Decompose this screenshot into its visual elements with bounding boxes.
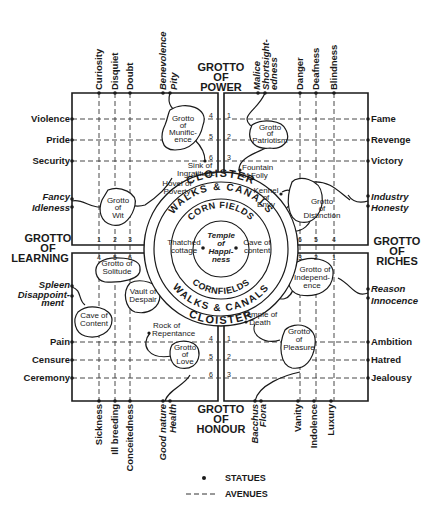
svg-text:Envy: Envy	[257, 200, 275, 209]
svg-text:Distinction: Distinction	[304, 211, 341, 220]
svg-text:5: 5	[314, 236, 318, 243]
svg-text:Deafness: Deafness	[310, 48, 321, 90]
svg-text:Fame: Fame	[371, 113, 396, 124]
hovel-of-poverty: Hovel of Poverty	[162, 179, 192, 196]
svg-text:3: 3	[227, 154, 231, 161]
svg-text:ness: ness	[212, 255, 231, 264]
svg-text:Ambition: Ambition	[371, 336, 412, 347]
svg-text:5: 5	[209, 133, 213, 140]
svg-text:4: 4	[97, 254, 101, 261]
svg-text:cottage: cottage	[171, 246, 198, 255]
svg-text:Violence: Violence	[31, 113, 70, 124]
svg-text:Idleness: Idleness	[32, 202, 70, 213]
grotto-of-power: GROTTO OF POWER	[198, 61, 245, 93]
svg-text:4: 4	[332, 236, 336, 243]
svg-text:3: 3	[128, 236, 132, 243]
svg-text:6: 6	[209, 154, 213, 161]
svg-text:Solitude: Solitude	[103, 267, 132, 276]
svg-text:Indolence: Indolence	[308, 404, 319, 448]
cave-of-content-center: Cave of content	[243, 238, 271, 255]
svg-text:3: 3	[298, 254, 302, 261]
svg-text:ment: ment	[41, 297, 65, 308]
svg-text:Health: Health	[167, 404, 178, 433]
svg-text:2: 2	[314, 254, 318, 261]
thatched-cottage: Thatched cottage	[167, 238, 200, 255]
svg-text:Ingratitude: Ingratitude	[177, 169, 215, 178]
svg-text:content: content	[244, 246, 271, 255]
grotto-of-solitude: Grotto of Solitude	[101, 259, 133, 276]
svg-text:Flora: Flora	[257, 404, 268, 427]
statue-dot-icon	[202, 476, 206, 480]
svg-text:Honesty: Honesty	[371, 202, 409, 213]
grotto-of-honour: GROTTO OF HONOUR	[197, 403, 246, 435]
svg-text:Jealousy: Jealousy	[371, 372, 412, 383]
svg-text:Danger: Danger	[294, 57, 305, 90]
svg-text:Ill breeding: Ill breeding	[109, 404, 120, 455]
svg-text:2: 2	[113, 236, 117, 243]
svg-text:Benevolence: Benevolence	[157, 31, 168, 90]
svg-text:Pleasure: Pleasure	[283, 343, 315, 352]
svg-text:Revenge: Revenge	[371, 134, 411, 145]
svg-text:Doubt: Doubt	[124, 62, 135, 90]
svg-text:Censure: Censure	[32, 354, 70, 365]
svg-text:Pity: Pity	[168, 72, 179, 90]
sink-of-ingratitude: Sink of Ingratitude	[177, 159, 215, 178]
svg-text:5: 5	[209, 353, 213, 360]
svg-text:Vanity: Vanity	[292, 403, 303, 432]
labyrinth-diagram: CLOISTER CLOISTER WALKS & CANALS WALKS &…	[0, 0, 444, 521]
grotto-of-riches: GROTTO OF RICHES	[374, 235, 421, 267]
svg-text:HONOUR: HONOUR	[197, 423, 246, 435]
svg-text:1: 1	[227, 335, 231, 342]
svg-text:Pain: Pain	[50, 336, 70, 347]
svg-text:1: 1	[97, 236, 101, 243]
grotto-of-learning: GROTTO OF LEARNING	[11, 232, 72, 264]
svg-text:Fancy: Fancy	[43, 191, 71, 202]
svg-text:2: 2	[227, 353, 231, 360]
svg-text:Security: Security	[33, 155, 71, 166]
svg-text:Industry: Industry	[371, 191, 409, 202]
rock-of-repentance: Rock of Repentance	[147, 321, 195, 338]
svg-text:Hatred: Hatred	[371, 354, 401, 365]
svg-text:Death: Death	[249, 318, 270, 327]
svg-text:5: 5	[113, 254, 117, 261]
svg-text:4: 4	[209, 112, 213, 119]
svg-text:LEARNING: LEARNING	[11, 252, 68, 264]
svg-text:Luxury: Luxury	[325, 403, 336, 435]
svg-text:Content: Content	[80, 319, 109, 328]
svg-text:Love: Love	[176, 357, 194, 366]
legend-statues: STATUES	[225, 473, 266, 483]
svg-text:Innocence: Innocence	[371, 295, 419, 306]
svg-text:Poverty: Poverty	[163, 187, 190, 196]
cave-of-content-left: Cave of Content	[80, 311, 109, 328]
svg-text:Repentance: Repentance	[152, 329, 196, 338]
svg-text:3: 3	[227, 371, 231, 378]
svg-text:6: 6	[128, 254, 132, 261]
svg-text:Patriotism: Patriotism	[252, 136, 288, 145]
svg-text:RICHES: RICHES	[376, 255, 418, 267]
svg-text:Wit: Wit	[112, 211, 124, 220]
svg-text:of Folly: of Folly	[242, 171, 268, 180]
svg-text:Reason: Reason	[371, 283, 406, 294]
svg-text:Victory: Victory	[371, 155, 404, 166]
vault-of-despair: Vault of Despair	[129, 287, 157, 304]
legend-avenues: AVENUES	[225, 489, 268, 499]
svg-text:POWER: POWER	[200, 81, 242, 93]
temple-of-death: Temple of Death	[243, 310, 278, 327]
svg-text:edness: edness	[268, 57, 279, 90]
svg-text:Blindness: Blindness	[328, 45, 339, 90]
svg-text:Sickness: Sickness	[93, 404, 104, 445]
svg-text:ence: ence	[174, 135, 192, 144]
svg-text:4: 4	[209, 335, 213, 342]
svg-text:Conceitedness: Conceitedness	[124, 404, 135, 472]
svg-text:1: 1	[227, 112, 231, 119]
svg-text:6: 6	[298, 236, 302, 243]
svg-text:Pride: Pride	[46, 134, 70, 145]
svg-text:Ceremony: Ceremony	[24, 372, 71, 383]
svg-text:2: 2	[227, 133, 231, 140]
svg-text:Curiosity: Curiosity	[93, 48, 104, 90]
svg-text:Disquiet: Disquiet	[109, 52, 120, 90]
svg-text:6: 6	[209, 371, 213, 378]
svg-text:1: 1	[332, 254, 336, 261]
fountain-of-folly: Fountain of Folly	[238, 163, 273, 180]
svg-text:ence: ence	[303, 281, 321, 290]
